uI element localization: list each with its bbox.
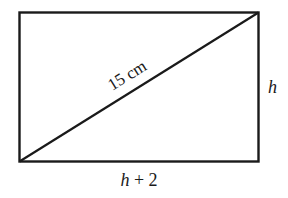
bottom-side-label: h + 2 (120, 170, 157, 190)
right-side-label: h (268, 77, 277, 97)
diagonal-label: 15 cm (104, 56, 150, 94)
diagonal-line (20, 13, 259, 162)
rectangle-diagram: 15 cm h h + 2 (0, 0, 288, 198)
